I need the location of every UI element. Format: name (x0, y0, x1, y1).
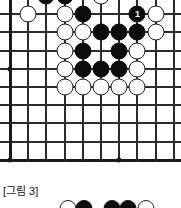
white-stone-clipped (138, 200, 155, 208)
black-stone[interactable] (74, 42, 91, 59)
white-stone-clipped (60, 200, 77, 208)
white-stone[interactable] (147, 6, 164, 23)
grid-line-vertical (45, 0, 47, 161)
white-stone[interactable] (56, 42, 73, 59)
white-stone[interactable] (56, 24, 73, 41)
black-stone[interactable] (56, 0, 73, 5)
black-stone-clipped (120, 200, 137, 208)
white-stone[interactable] (56, 60, 73, 77)
white-stone[interactable] (93, 79, 110, 96)
black-stone-clipped (76, 200, 93, 208)
white-stone[interactable] (129, 42, 146, 59)
star-point (8, 157, 13, 162)
black-stone[interactable] (93, 24, 110, 41)
black-stone[interactable] (111, 24, 128, 41)
white-stone[interactable] (93, 0, 110, 5)
white-stone[interactable] (56, 79, 73, 96)
grid-line-vertical (9, 0, 12, 161)
move-number-label: 1 (135, 9, 140, 18)
black-stone[interactable] (74, 6, 91, 23)
go-diagram-figure: 1 [그림 3] (0, 0, 181, 208)
grid-line-vertical (173, 0, 175, 161)
white-stone[interactable] (20, 6, 37, 23)
black-stone[interactable] (93, 60, 110, 77)
go-board: 1 (0, 0, 181, 172)
star-point (8, 66, 13, 71)
next-figure-stone-strip (0, 200, 181, 208)
figure-caption: [그림 3] (3, 182, 38, 198)
move-stone-1[interactable]: 1 (129, 6, 146, 23)
black-stone[interactable] (129, 24, 146, 41)
star-point (117, 157, 122, 162)
white-stone[interactable] (74, 79, 91, 96)
white-stone[interactable] (129, 60, 146, 77)
black-stone[interactable] (74, 60, 91, 77)
grid-line-vertical (27, 0, 29, 161)
white-stone[interactable] (147, 24, 164, 41)
black-stone[interactable] (38, 0, 55, 5)
white-stone[interactable] (111, 79, 128, 96)
black-stone-clipped (104, 200, 121, 208)
white-stone[interactable] (56, 6, 73, 23)
black-stone[interactable] (111, 42, 128, 59)
white-stone[interactable] (74, 24, 91, 41)
white-stone[interactable] (129, 79, 146, 96)
black-stone[interactable] (111, 60, 128, 77)
